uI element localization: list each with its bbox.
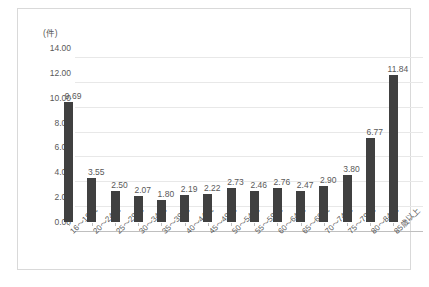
y-axis-tick-label: 12.00 [50,68,71,78]
gridline [75,107,423,108]
bar-value-label: 9.69 [53,91,93,101]
y-axis-tick-labels: 14.0012.0010.008.006.004.002.000.00 [18,9,71,287]
bar[interactable] [296,191,305,222]
y-axis-tick-label: 14.00 [50,43,71,53]
bar[interactable] [180,195,189,222]
bar[interactable] [389,75,398,222]
bar[interactable] [87,178,96,222]
bar[interactable] [273,188,282,222]
bar[interactable] [111,191,120,222]
bar[interactable] [366,138,375,222]
gridline [75,82,423,83]
bar[interactable] [64,102,73,222]
bar[interactable] [203,194,212,222]
bar[interactable] [343,175,352,222]
bar-value-label: 11.84 [378,64,418,74]
bar[interactable] [227,188,236,222]
bar[interactable] [319,186,328,222]
bar[interactable] [157,200,166,222]
bar[interactable] [134,196,143,222]
chart-container: (件) 14.0012.0010.008.006.004.002.000.00 … [17,8,411,270]
bar-value-label: 3.55 [76,167,116,177]
gridline [75,57,423,58]
bar[interactable] [250,191,259,222]
